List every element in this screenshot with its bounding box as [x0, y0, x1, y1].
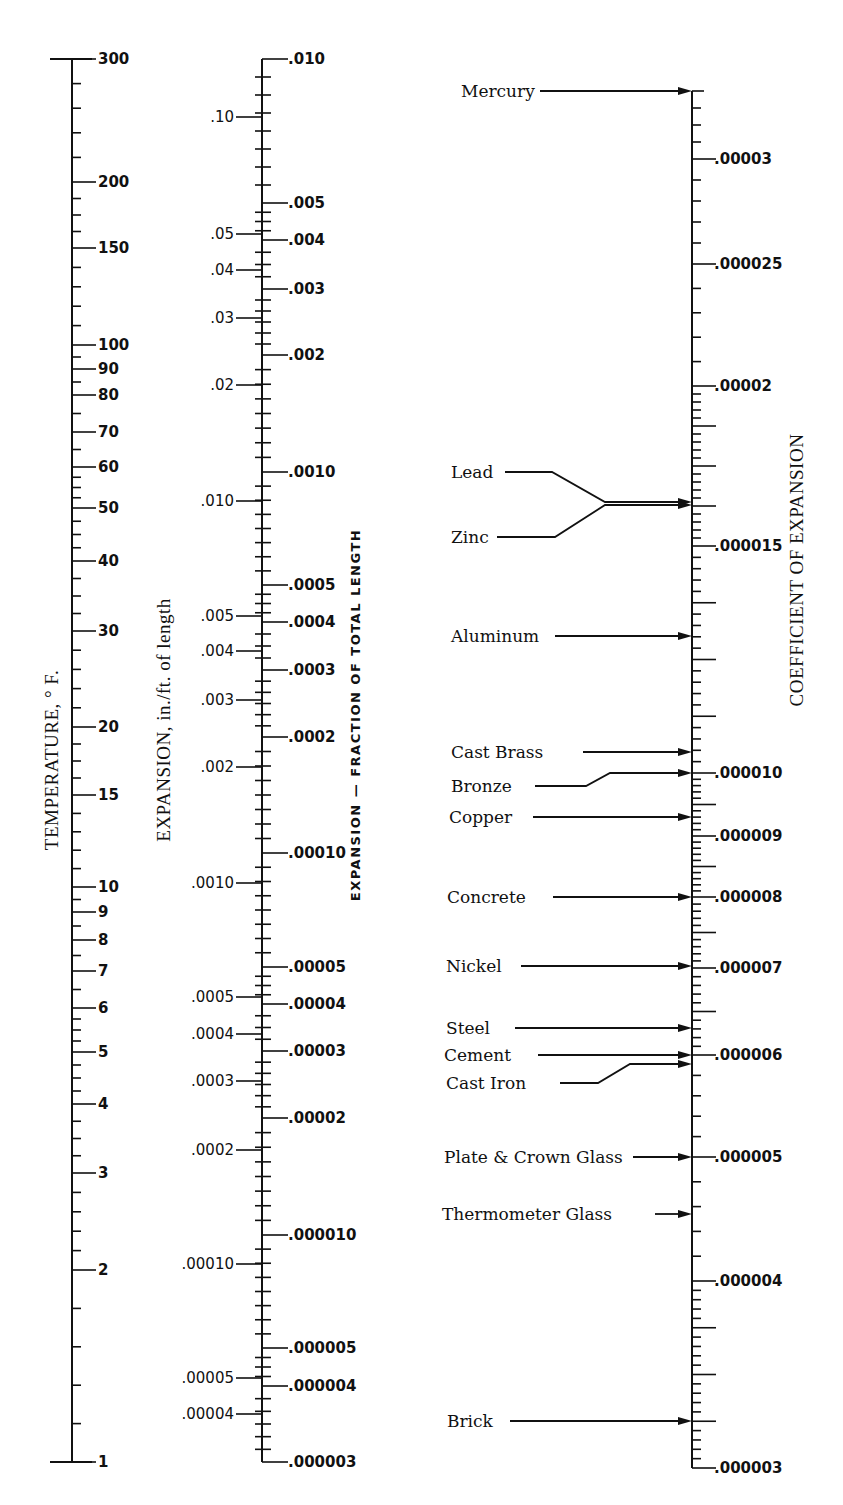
- arrow-icon: [678, 813, 692, 821]
- coefficient-axis-title: COEFFICIENT OF EXPANSION: [786, 434, 807, 707]
- coefficient-tick-label: .000005: [714, 1148, 782, 1166]
- leader-line: [535, 773, 682, 786]
- expansion-axis: .10.05.04.03.02.010.005.004.003.002.0010…: [182, 50, 357, 1471]
- arrow-icon: [678, 893, 692, 901]
- leader-line: [560, 1064, 682, 1083]
- coefficient-tick-label: .000025: [714, 255, 782, 273]
- temperature-tick-label: 10: [98, 878, 119, 896]
- expansion-in-per-ft-tick-label: .03: [210, 309, 234, 327]
- temperature-tick-label: 4: [98, 1095, 108, 1113]
- material-label: Mercury: [461, 81, 535, 101]
- expansion-in-per-ft-tick-label: .0010: [191, 874, 234, 892]
- temperature-tick-label: 8: [98, 931, 108, 949]
- expansion-in-per-ft-tick-label: .02: [210, 376, 234, 394]
- coefficient-tick-label: .000003: [714, 1459, 782, 1477]
- temperature-tick-label: 30: [98, 622, 119, 640]
- material-brick: Brick: [447, 1411, 692, 1431]
- material-nickel: Nickel: [446, 956, 692, 976]
- expansion-in-per-ft-tick-label: .005: [201, 607, 234, 625]
- leader-line: [497, 505, 682, 537]
- arrow-icon: [678, 632, 692, 640]
- arrow-icon: [678, 1060, 692, 1068]
- material-aluminum: Aluminum: [450, 626, 692, 646]
- arrow-icon: [678, 1210, 692, 1218]
- expansion-fraction-tick-label: .000004: [288, 1377, 356, 1395]
- expansion-fraction-tick-label: .00004: [288, 995, 346, 1013]
- temperature-tick-label: 15: [98, 786, 119, 804]
- material-bronze: Bronze: [451, 769, 692, 796]
- temperature-tick-label: 100: [98, 336, 129, 354]
- coefficient-tick-label: .00002: [714, 377, 772, 395]
- temperature-tick-label: 40: [98, 552, 119, 570]
- arrow-icon: [678, 1051, 692, 1059]
- material-label: Copper: [449, 807, 513, 827]
- arrow-icon: [678, 748, 692, 756]
- expansion-fraction-tick-label: .000010: [288, 1226, 356, 1244]
- material-copper: Copper: [449, 807, 692, 827]
- temperature-axis-title: TEMPERATURE, ° F.: [41, 670, 62, 850]
- expansion-fraction-tick-label: .0003: [288, 661, 335, 679]
- temperature-tick-label: 90: [98, 360, 119, 378]
- temperature-tick-label: 300: [98, 50, 129, 68]
- material-lead: Lead: [451, 462, 692, 506]
- expansion-fraction-tick-label: .00003: [288, 1042, 346, 1060]
- temperature-tick-label: 20: [98, 718, 119, 736]
- expansion-fraction-tick-label: .00002: [288, 1109, 346, 1127]
- temperature-tick-label: 3: [98, 1164, 108, 1182]
- expansion-fraction-tick-label: .000003: [288, 1453, 356, 1471]
- material-label: Brick: [447, 1411, 494, 1431]
- coefficient-tick-label: .000009: [714, 827, 782, 845]
- material-thermometer-glass: Thermometer Glass: [442, 1204, 692, 1224]
- expansion-in-per-ft-tick-label: .003: [201, 691, 234, 709]
- material-label: Concrete: [447, 887, 526, 907]
- coefficient-tick-label: .000007: [714, 959, 782, 977]
- temperature-tick-label: 60: [98, 458, 119, 476]
- temperature-tick-label: 2: [98, 1261, 108, 1279]
- material-label: Nickel: [446, 956, 502, 976]
- expansion-in-per-ft-tick-label: .0004: [191, 1025, 234, 1043]
- arrow-icon: [678, 87, 692, 95]
- material-label: Zinc: [451, 527, 489, 547]
- expansion-fraction-tick-label: .002: [288, 346, 325, 364]
- material-label: Cast Iron: [446, 1073, 526, 1093]
- expansion-fraction-tick-label: .00005: [288, 958, 346, 976]
- temperature-tick-label: 70: [98, 423, 119, 441]
- expansion-fraction-tick-label: .000005: [288, 1339, 356, 1357]
- temperature-tick-label: 6: [98, 999, 108, 1017]
- expansion-in-per-ft-tick-label: .010: [201, 492, 234, 510]
- expansion-fraction-tick-label: .003: [288, 280, 325, 298]
- expansion-in-per-ft-tick-label: .00004: [182, 1405, 235, 1423]
- arrow-icon: [678, 1024, 692, 1032]
- coefficient-tick-label: .000004: [714, 1272, 782, 1290]
- arrow-icon: [678, 1417, 692, 1425]
- temperature-tick-label: 9: [98, 903, 108, 921]
- expansion-fraction-tick-label: .010: [288, 50, 325, 68]
- temperature-tick-label: 150: [98, 239, 129, 257]
- temperature-tick-label: 200: [98, 173, 129, 191]
- leader-line: [505, 472, 682, 502]
- material-label: Cement: [444, 1045, 511, 1065]
- coefficient-tick-label: .000015: [714, 537, 782, 555]
- material-label: Steel: [446, 1018, 490, 1038]
- temperature-tick-label: 7: [98, 962, 108, 980]
- temperature-tick-label: 50: [98, 499, 119, 517]
- expansion-in-per-ft-tick-label: .004: [201, 642, 234, 660]
- temperature-tick-label: 80: [98, 386, 119, 404]
- expansion-in-per-ft-tick-label: .0002: [191, 1141, 234, 1159]
- expansion-in-per-ft-axis-title: EXPANSION, in./ft. of length: [153, 598, 174, 841]
- coefficient-tick-label: .000010: [714, 764, 782, 782]
- expansion-in-per-ft-tick-label: .04: [210, 261, 234, 279]
- expansion-fraction-tick-label: .0010: [288, 463, 335, 481]
- arrow-icon: [678, 962, 692, 970]
- material-label: Thermometer Glass: [442, 1204, 612, 1224]
- material-label: Cast Brass: [451, 742, 543, 762]
- expansion-fraction-axis-title: EXPANSION — FRACTION OF TOTAL LENGTH: [348, 529, 363, 901]
- coefficient-tick-label: .00003: [714, 150, 772, 168]
- materials-list: MercuryLeadZincAluminumCast BrassBronzeC…: [442, 81, 692, 1431]
- expansion-in-per-ft-tick-label: .00010: [182, 1255, 235, 1273]
- expansion-in-per-ft-tick-label: .002: [201, 758, 234, 776]
- expansion-in-per-ft-tick-label: .05: [210, 225, 234, 243]
- expansion-fraction-tick-label: .00010: [288, 844, 346, 862]
- material-zinc: Zinc: [451, 501, 692, 547]
- expansion-in-per-ft-tick-label: .0005: [191, 988, 234, 1006]
